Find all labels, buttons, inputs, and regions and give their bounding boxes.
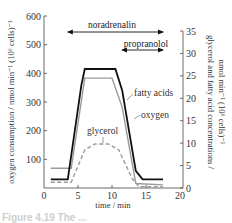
y-tick-label-left: 200 xyxy=(26,125,41,136)
noradrenalin-label: noradrenalin xyxy=(88,20,136,30)
y-tick-label-left: 100 xyxy=(26,154,41,165)
y-axis-title-right-line2: nmol min⁻¹ (10⁶ cells)⁻¹ xyxy=(217,60,227,145)
x-axis-title: time / min xyxy=(95,200,131,210)
x-tick-label: 5 xyxy=(76,190,81,201)
y-tick-label-left: 500 xyxy=(26,39,41,50)
tick-labels: 0510152010020030040050060005101520253035 xyxy=(26,11,196,202)
y-axis-title-right-line1: glycerol and fatty acid concentrations / xyxy=(206,35,216,169)
x-tick-label: 15 xyxy=(141,190,151,201)
y-tick-label-right: 20 xyxy=(186,93,196,104)
series-oxygen xyxy=(51,69,163,179)
x-tick-label: 0 xyxy=(42,190,47,201)
oxygen-label: oxygen xyxy=(141,110,169,120)
y-tick-label-right: 35 xyxy=(186,26,196,37)
y-tick-label-right: 10 xyxy=(186,138,196,149)
y-tick-label-left: 600 xyxy=(26,11,41,22)
y-tick-label-right: 30 xyxy=(186,48,196,59)
x-tick-label: 20 xyxy=(175,190,185,201)
y-tick-label-right: 5 xyxy=(186,160,191,171)
chart: 0510152010020030040050060005101520253035… xyxy=(0,0,232,223)
y-tick-label-left: 300 xyxy=(26,97,41,108)
y-tick-label-left: 400 xyxy=(26,68,41,79)
y-tick-label-right: 25 xyxy=(186,70,196,81)
y-tick-label-right: 15 xyxy=(186,115,196,126)
fatty-acids-label: fatty acids xyxy=(134,88,174,98)
y-axis-title-left: oxygen consumption / nmol min⁻¹ (10⁶ cel… xyxy=(6,20,16,184)
figure-caption: Figure 4.19 The ... xyxy=(2,212,86,223)
propranolol-label: propranolol xyxy=(124,39,169,49)
y-tick-label-right: 0 xyxy=(186,183,191,194)
glycerol-label: glycerol xyxy=(87,126,118,136)
